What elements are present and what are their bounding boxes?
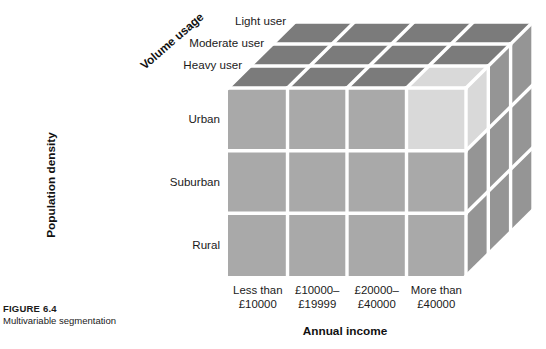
figure-number: FIGURE 6.4 (3, 303, 133, 314)
column-label-line2: £40000 (399, 297, 473, 311)
row-label-rural: Rural (120, 238, 220, 251)
depth-label-heavy-user: Heavy user (87, 58, 242, 71)
column-label-more-than-40000: More than £40000 (399, 283, 473, 312)
figure-container: Light user Moderate user Heavy user Urba… (0, 0, 546, 349)
row-label-suburban: Suburban (120, 175, 220, 188)
row-label-urban: Urban (120, 112, 220, 125)
figure-caption: FIGURE 6.4 Multivariable segmentation (3, 303, 133, 326)
figure-title: Multivariable segmentation (3, 315, 133, 326)
axis-title-population-density: Population density (44, 100, 58, 270)
depth-label-moderate-user: Moderate user (109, 36, 264, 49)
axis-title-annual-income: Annual income (250, 324, 440, 338)
column-label-line1: More than (399, 283, 473, 297)
